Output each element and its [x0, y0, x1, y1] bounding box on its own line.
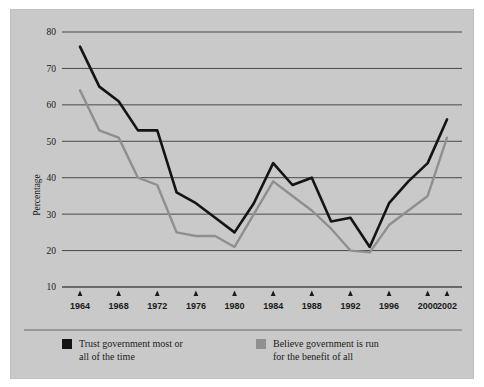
- series-line-benefit-of-all: [80, 90, 447, 252]
- y-tick-label: 20: [47, 246, 57, 256]
- y-axis-title: Percentage: [32, 174, 42, 216]
- x-tick-label: 1964: [70, 301, 90, 311]
- x-tick-label: 1984: [263, 301, 283, 311]
- y-tick-label: 80: [47, 27, 57, 37]
- x-tick-mark: [116, 291, 121, 297]
- legend-label-benefit-of-all: Believe government is run for the benefi…: [273, 338, 379, 363]
- y-tick-label: 70: [47, 64, 57, 74]
- x-tick-label: 2000: [418, 301, 438, 311]
- x-tick-mark: [193, 291, 198, 297]
- y-tick-label: 60: [47, 100, 57, 110]
- y-tick-label: 30: [47, 210, 57, 220]
- x-tick-mark: [309, 291, 314, 297]
- chart-legend: Trust government most or all of the time…: [62, 338, 462, 378]
- y-tick-labels-group: 1020304050607080: [47, 27, 57, 292]
- x-tick-mark: [348, 291, 353, 297]
- x-tick-labels-group: 1964196819721976198019841988199219962000…: [70, 301, 457, 311]
- legend-swatch-black: [62, 339, 72, 349]
- legend-item-trust-government: Trust government most or all of the time: [62, 338, 183, 363]
- x-tick-label: 1988: [302, 301, 322, 311]
- chart-figure: 1020304050607080 19641968197219761980198…: [0, 0, 484, 387]
- x-tick-mark: [445, 291, 450, 297]
- x-tick-label: 1980: [225, 301, 245, 311]
- x-tick-label: 1996: [379, 301, 399, 311]
- y-tick-label: 50: [47, 137, 57, 147]
- x-tick-label: 2002: [437, 301, 457, 311]
- x-tick-label: 1992: [340, 301, 360, 311]
- data-series-group: [80, 47, 447, 253]
- y-tick-label: 40: [47, 173, 57, 183]
- x-tick-mark: [387, 291, 392, 297]
- x-tick-label: 1976: [186, 301, 206, 311]
- x-tick-label: 1972: [147, 301, 167, 311]
- legend-item-benefit-of-all: Believe government is run for the benefi…: [256, 338, 379, 363]
- x-tick-mark: [78, 291, 83, 297]
- x-tick-marks-group: [78, 291, 450, 297]
- legend-swatch-gray: [256, 339, 266, 349]
- x-tick-mark: [155, 291, 160, 297]
- line-chart-plot: 1020304050607080 19641968197219761980198…: [0, 0, 484, 387]
- series-line-trust-government: [80, 47, 447, 247]
- x-tick-label: 1968: [109, 301, 129, 311]
- y-tick-label: 10: [47, 282, 57, 292]
- x-tick-mark: [271, 291, 276, 297]
- legend-label-trust-government: Trust government most or all of the time: [79, 338, 183, 363]
- x-tick-mark: [232, 291, 237, 297]
- x-tick-mark: [425, 291, 430, 297]
- gridlines-group: [62, 32, 462, 287]
